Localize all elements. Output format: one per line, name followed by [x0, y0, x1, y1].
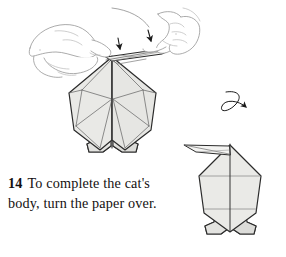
fold-arrow-left — [118, 38, 120, 49]
step-caption: 14To complete the cat's body, turn the p… — [8, 174, 176, 213]
step-number: 14 — [8, 175, 23, 191]
origami-illustration — [0, 0, 286, 257]
turn-over-arrow — [221, 92, 246, 111]
right-hand — [143, 8, 200, 54]
fold-arrow-right — [148, 30, 151, 41]
step-text: To complete the cat's body, turn the pap… — [8, 175, 157, 211]
figure-reversed-body — [184, 144, 261, 234]
illustration-page: 14To complete the cat's body, turn the p… — [0, 0, 286, 257]
